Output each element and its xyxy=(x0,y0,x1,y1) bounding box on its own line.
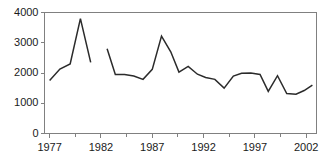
x-axis-tick-label: 1992 xyxy=(184,142,224,153)
y-axis-tick-label: 2000 xyxy=(14,67,38,78)
x-axis-tick-label: 1987 xyxy=(132,142,172,153)
y-axis-tick-label: 1000 xyxy=(14,97,38,108)
data-line-segment xyxy=(50,19,91,81)
x-axis-tick-label: 1997 xyxy=(235,142,275,153)
y-axis-tick-label: 0 xyxy=(32,128,38,139)
y-axis-tick-label: 3000 xyxy=(14,37,38,48)
chart-tick-marks xyxy=(41,13,306,138)
data-line-segment xyxy=(107,36,312,94)
y-axis-tick-label: 4000 xyxy=(14,7,38,18)
x-axis-tick-label: 1982 xyxy=(81,142,121,153)
chart-data-line xyxy=(50,19,313,95)
line-chart: 40003000200010000 1977198219871992199720… xyxy=(0,0,328,163)
x-axis-tick-label: 1977 xyxy=(30,142,70,153)
chart-plot-area xyxy=(0,0,328,163)
chart-axes xyxy=(45,13,317,134)
x-axis-tick-label: 2002 xyxy=(286,142,326,153)
